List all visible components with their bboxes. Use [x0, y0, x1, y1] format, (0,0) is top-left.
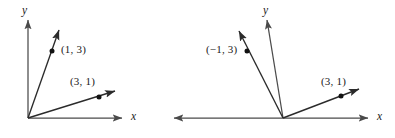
left-vector-3-1: [28, 91, 115, 118]
right-vector-neg1-3-label: (−1, 3): [206, 44, 237, 55]
left-point-3-1: [97, 95, 102, 100]
right-y-axis-label: y: [263, 5, 268, 17]
right-vector-3-1: [283, 89, 359, 118]
left-vector-1-3: [28, 30, 59, 118]
left-point-1-3: [50, 49, 55, 54]
right-x-axis-label: x: [377, 111, 382, 123]
right-point-neg1-3: [245, 49, 250, 54]
right-point-3-1: [339, 94, 344, 99]
left-panel-group: [28, 20, 122, 118]
diagram-canvas: [0, 0, 395, 138]
left-vector-3-1-label: (3, 1): [70, 76, 95, 87]
left-y-axis-label: y: [22, 5, 27, 17]
left-x-axis-label: x: [131, 111, 136, 123]
left-vector-1-3-label: (1, 3): [61, 44, 86, 55]
right-vector-3-1-label: (3, 1): [321, 76, 346, 87]
right-panel-group: [174, 20, 368, 118]
vector-figure: y x (1, 3) (3, 1) y x (−1, 3) (3, 1): [0, 0, 395, 138]
